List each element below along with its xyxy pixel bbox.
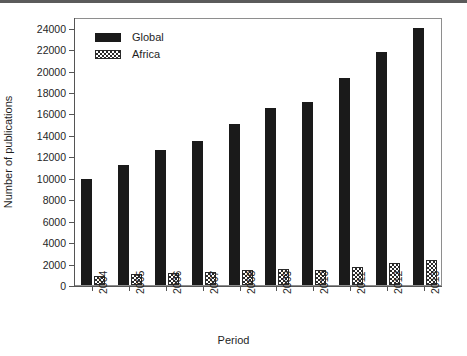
x-axis-tick xyxy=(387,287,388,291)
y-axis-tick-label: 24000 xyxy=(37,23,66,34)
x-axis-tick-label: 2007 xyxy=(208,271,220,294)
y-axis-tick-label: 14000 xyxy=(37,131,66,142)
y-axis-tick-label: 22000 xyxy=(37,45,66,56)
bar-global xyxy=(376,52,387,285)
x-axis-tick xyxy=(313,287,314,291)
legend-item-global: Global xyxy=(95,30,164,45)
y-axis-tick xyxy=(69,72,74,73)
y-axis-tick-label: 10000 xyxy=(37,174,66,185)
bar-global xyxy=(155,150,166,285)
bar-global xyxy=(229,124,240,285)
x-axis-tick-label: 2008 xyxy=(245,271,257,294)
x-axis-tick-label: 2013 xyxy=(429,271,441,294)
bar-global xyxy=(413,28,424,285)
x-axis-tick xyxy=(203,287,204,291)
y-axis-tick xyxy=(69,29,74,30)
x-axis-tick xyxy=(424,287,425,291)
x-axis-tick-label: 2011 xyxy=(355,271,367,294)
y-axis-line xyxy=(74,18,75,286)
y-axis-tick xyxy=(69,222,74,223)
y-axis-tick xyxy=(69,93,74,94)
y-axis-tick-label: 16000 xyxy=(37,109,66,120)
x-axis-tick xyxy=(129,287,130,291)
bar-global xyxy=(118,165,129,285)
x-axis-tick-label: 2006 xyxy=(171,271,183,294)
bar-chart-figure: 0200040006000800010000120001400016000180… xyxy=(0,0,467,356)
x-axis-tick xyxy=(92,287,93,291)
y-axis-tick xyxy=(69,157,74,158)
y-axis-tick-label: 8000 xyxy=(43,195,66,206)
x-axis-tick xyxy=(166,287,167,291)
bar-global xyxy=(265,108,276,285)
y-axis-tick xyxy=(69,136,74,137)
y-axis-tick-label: 4000 xyxy=(43,238,66,249)
y-axis-tick-label: 12000 xyxy=(37,152,66,163)
y-axis-tick-label: 20000 xyxy=(37,66,66,77)
y-axis-tick xyxy=(69,50,74,51)
y-axis-tick-label: 18000 xyxy=(37,88,66,99)
y-axis-tick xyxy=(69,114,74,115)
x-axis-tick xyxy=(240,287,241,291)
bar-global xyxy=(81,179,92,285)
x-axis-tick-label: 2004 xyxy=(97,271,109,294)
y-axis-tick-label: 6000 xyxy=(43,216,66,227)
y-axis-tick xyxy=(69,265,74,266)
legend-swatch-africa-icon xyxy=(95,50,121,59)
bar-global xyxy=(339,78,350,285)
y-axis-title: Number of publications xyxy=(2,96,14,209)
x-axis-tick-label: 2012 xyxy=(392,271,404,294)
y-axis-tick-label: 0 xyxy=(60,281,66,292)
chart-legend: Global Africa xyxy=(95,30,164,64)
y-axis-tick xyxy=(69,179,74,180)
legend-label-africa: Africa xyxy=(132,49,160,60)
x-axis-tick xyxy=(276,287,277,291)
scan-edge-band xyxy=(0,0,467,3)
x-axis-tick-label: 2009 xyxy=(281,271,293,294)
bar-global xyxy=(302,102,313,285)
y-axis-tick-label: 2000 xyxy=(43,259,66,270)
x-axis-tick-label: 2005 xyxy=(134,271,146,294)
legend-swatch-global-icon xyxy=(95,33,121,42)
x-axis-tick-label: 2010 xyxy=(318,271,330,294)
y-axis-tick xyxy=(69,200,74,201)
legend-label-global: Global xyxy=(132,32,164,43)
x-axis-title: Period xyxy=(0,334,467,346)
legend-item-africa: Africa xyxy=(95,47,164,62)
y-axis-tick xyxy=(69,243,74,244)
bar-global xyxy=(192,141,203,285)
x-axis-tick xyxy=(350,287,351,291)
